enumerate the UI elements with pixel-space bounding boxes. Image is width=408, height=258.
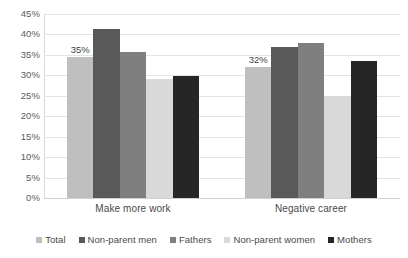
y-axis-tick-label: 35% [0, 50, 40, 60]
bar[interactable] [324, 96, 350, 198]
bar-slot [324, 14, 350, 198]
bar-slot [93, 14, 119, 198]
legend-label: Total [45, 234, 65, 245]
legend-swatch-icon [36, 237, 42, 243]
bar-slot [146, 14, 172, 198]
bar-value-label: 35% [71, 44, 90, 55]
bar-value-label: 32% [249, 54, 268, 65]
legend-swatch-icon [79, 237, 85, 243]
y-axis-tick-label: 0% [0, 193, 40, 203]
bar-slot [271, 14, 297, 198]
legend-item[interactable]: Non-parent women [224, 234, 315, 245]
legend-label: Non-parent women [233, 234, 315, 245]
legend-label: Fathers [179, 234, 212, 245]
legend-item[interactable]: Fathers [170, 234, 212, 245]
bar-slot [120, 14, 146, 198]
legend-swatch-icon [224, 237, 230, 243]
bar[interactable] [93, 29, 119, 198]
y-axis-tick-label: 30% [0, 70, 40, 80]
bar-group: 32% [222, 14, 400, 198]
legend-item[interactable]: Non-parent men [79, 234, 157, 245]
bar-slot [173, 14, 199, 198]
legend-label: Non-parent men [88, 234, 157, 245]
axis-baseline [44, 198, 400, 199]
chart-legend: TotalNon-parent menFathersNon-parent wom… [0, 234, 408, 245]
legend-swatch-icon [170, 237, 176, 243]
bar[interactable] [120, 52, 146, 198]
y-axis-tick-label: 40% [0, 29, 40, 39]
legend-swatch-icon [328, 237, 334, 243]
bar[interactable] [271, 47, 297, 198]
bar-slot [351, 14, 377, 198]
bar-groups: 35%32% [44, 14, 400, 198]
y-axis-tick-label: 45% [0, 9, 40, 19]
y-axis-tick-label: 5% [0, 173, 40, 183]
y-axis-tick-label: 25% [0, 91, 40, 101]
x-axis-category-label: Negative career [222, 203, 400, 215]
bar-slot [298, 14, 324, 198]
plot-area: 35%32% [44, 14, 400, 198]
y-axis-tick-label: 15% [0, 132, 40, 142]
y-axis-tick-label: 10% [0, 152, 40, 162]
bar-slot: 35% [67, 14, 93, 198]
bar[interactable]: 32% [245, 67, 271, 198]
bar[interactable] [173, 76, 199, 198]
x-axis-category-labels: Make more workNegative career [44, 203, 400, 215]
y-axis-tick-label: 20% [0, 111, 40, 121]
bar[interactable] [146, 79, 172, 198]
bar[interactable]: 35% [67, 57, 93, 198]
legend-item[interactable]: Mothers [328, 234, 372, 245]
y-axis-tick-labels: 45%40%35%30%25%20%15%10%5%0% [0, 0, 40, 258]
legend-item[interactable]: Total [36, 234, 65, 245]
bar-group: 35% [44, 14, 222, 198]
bar[interactable] [298, 43, 324, 198]
bar-slot: 32% [245, 14, 271, 198]
legend-label: Mothers [337, 234, 372, 245]
bar[interactable] [351, 61, 377, 198]
bar-chart: 45%40%35%30%25%20%15%10%5%0% 35%32% Make… [0, 0, 408, 258]
x-axis-category-label: Make more work [44, 203, 222, 215]
